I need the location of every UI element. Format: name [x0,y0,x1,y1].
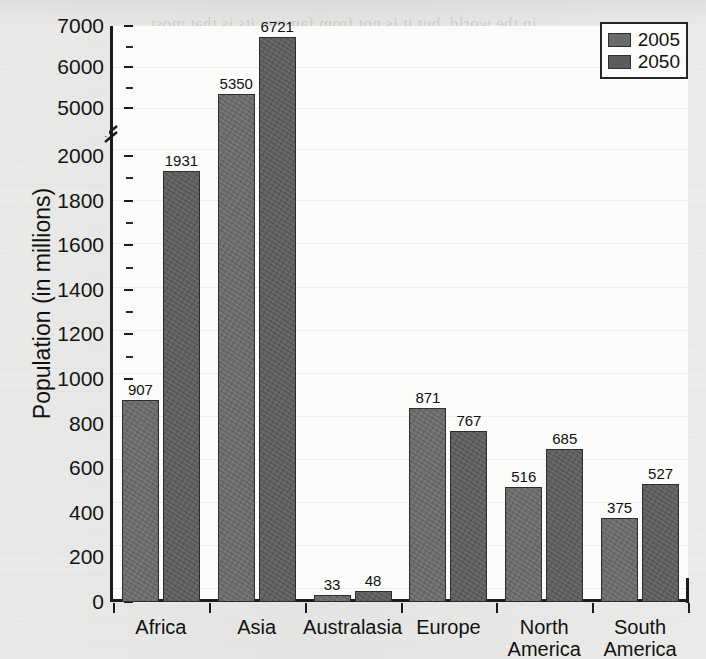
bar-value-label: 6721 [249,18,306,35]
bar-texture [315,596,350,601]
bar-value-label: 907 [112,381,169,398]
x-axis-tick [592,603,594,613]
x-axis-tick [688,603,690,613]
bars-layer: 9071931535067213348871767516685375527 [113,26,688,602]
bar-asia-2050 [259,37,296,602]
bar-texture [410,409,445,601]
y-axis-tick-label: 0 [32,590,104,614]
bar-value-label: 767 [440,412,497,429]
bar-texture [164,172,199,601]
y-axis-tick-label: 200 [32,545,104,569]
bar-texture [506,488,541,601]
bar-texture [451,432,486,601]
population-bar-chart: in the world, but it is not from famine,… [0,0,706,659]
bar-australasia-2005 [314,595,351,602]
bar-value-label: 48 [345,572,402,589]
bar-value-label: 516 [495,468,552,485]
bar-texture [356,592,391,601]
x-axis-tick [305,603,307,613]
bar-north-america-2005 [505,487,542,602]
bar-europe-2005 [409,408,446,602]
bar-europe-2050 [450,431,487,602]
legend: 2005 2050 [600,22,688,79]
legend-swatch-2050-icon [608,55,631,69]
x-axis-tick [401,603,403,613]
bar-value-label: 527 [632,465,689,482]
y-axis-title: Population (in millions) [29,94,56,514]
legend-swatch-2005-icon [608,33,631,47]
x-axis-tick [113,603,115,613]
bar-texture [547,450,582,601]
bar-value-label: 375 [591,499,648,516]
x-axis-tick [496,603,498,613]
bar-texture [260,38,295,601]
y-axis-tick-label: 6000 [32,55,104,79]
legend-label-2005: 2005 [638,29,680,51]
bar-south-america-2005 [601,518,638,602]
bar-africa-2005 [122,400,159,602]
x-axis-tick [209,603,211,613]
bar-value-label: 871 [399,389,456,406]
bar-asia-2005 [218,94,255,602]
bar-value-label: 685 [536,430,593,447]
bar-south-america-2050 [642,484,679,602]
bar-australasia-2050 [355,591,392,602]
bar-value-label: 5350 [208,75,265,92]
legend-item-2005: 2005 [608,29,680,51]
bar-texture [123,401,158,601]
y-axis-tick-label: 7000 [32,14,104,38]
legend-item-2050: 2050 [608,51,680,73]
bar-value-label: 1931 [153,152,210,169]
x-axis-label-south-america: SouthAmerica [584,616,696,659]
bar-texture [643,485,678,601]
bar-africa-2050 [163,171,200,602]
bar-north-america-2050 [546,449,583,602]
bar-texture [219,95,254,601]
legend-label-2050: 2050 [638,51,680,73]
bar-texture [602,519,637,601]
